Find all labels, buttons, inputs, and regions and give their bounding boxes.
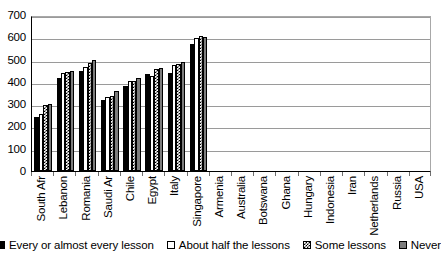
legend-label: Never	[411, 239, 441, 251]
y-axis-tick-label: 0	[20, 166, 26, 178]
x-axis-tick-label: Singapore	[192, 176, 204, 227]
x-axis-tick-label: Romania	[81, 176, 93, 221]
x-axis-tick-label: Botswana	[258, 176, 270, 225]
bar	[136, 78, 140, 171]
bar-group	[32, 17, 54, 171]
y-axis-tick-label: 500	[7, 55, 26, 67]
bars-layer	[32, 17, 430, 171]
bar-group	[210, 17, 232, 171]
y-axis-tick-label: 400	[7, 77, 26, 89]
legend-item[interactable]: Every or almost every lesson	[0, 239, 154, 251]
bar-group	[143, 17, 165, 171]
x-axis-tick-label: Chile	[125, 176, 137, 201]
x-axis-tick-label: USA	[414, 176, 426, 199]
bar	[70, 71, 74, 171]
x-axis-tick-label: Armenia	[214, 176, 226, 217]
x-axis-tick-label: Iran	[347, 176, 359, 195]
y-axis-tick-label: 300	[7, 99, 26, 111]
x-axis-tick-label: Ghana	[281, 176, 293, 210]
x-axis-tick-label: Italy	[169, 176, 181, 196]
bar-group	[76, 17, 98, 171]
x-axis-tick-label: Lebanon	[58, 176, 70, 219]
bar-group	[54, 17, 76, 171]
x-axis-tick-label: Russia	[392, 176, 404, 210]
bar-group	[388, 17, 410, 171]
y-axis-tick-label: 100	[7, 144, 26, 156]
bar-group	[165, 17, 187, 171]
bar-group	[188, 17, 210, 171]
legend-label: Every or almost every lesson	[9, 239, 154, 251]
bar-group	[99, 17, 121, 171]
x-axis-tick-label: Indonesia	[325, 176, 337, 224]
bar-group	[410, 17, 432, 171]
chart-legend: Every or almost every lessonAbout half t…	[0, 237, 438, 253]
legend-swatch-icon	[0, 241, 5, 249]
bar	[159, 68, 163, 171]
y-axis-tick-label: 200	[7, 122, 26, 134]
x-axis-tick-label: Egypt	[147, 176, 159, 204]
bar-group	[365, 17, 387, 171]
bar-group	[276, 17, 298, 171]
y-axis-tick-label: 600	[7, 33, 26, 45]
x-axis-tick-label: Saudi Ar	[103, 176, 115, 218]
bar	[203, 37, 207, 171]
legend-label: About half the lessons	[179, 239, 290, 251]
x-axis-tick-label: South Afr	[36, 176, 48, 222]
x-axis-tick-label: Netherlands	[369, 176, 381, 236]
bar-group	[121, 17, 143, 171]
legend-swatch-icon	[303, 241, 311, 249]
bar-group	[321, 17, 343, 171]
x-axis-tick-label: Hungary	[303, 176, 315, 218]
legend-item[interactable]: About half the lessons	[167, 239, 290, 251]
bar-group	[343, 17, 365, 171]
bar	[181, 62, 185, 171]
legend-item[interactable]: Some lessons	[303, 239, 386, 251]
legend-label: Some lessons	[315, 239, 386, 251]
bar-group	[232, 17, 254, 171]
bar-group	[254, 17, 276, 171]
bar-group	[299, 17, 321, 171]
legend-item[interactable]: Never	[399, 239, 441, 251]
bar	[48, 104, 52, 171]
x-axis: South AfrLebanonRomaniaSaudi ArChileEgyp…	[31, 176, 431, 234]
x-axis-tick-label: Australia	[236, 176, 248, 219]
legend-swatch-icon	[399, 241, 407, 249]
plot-area	[31, 16, 431, 172]
bar	[92, 60, 96, 171]
y-axis: 0100200300400500600700	[0, 0, 30, 180]
y-axis-tick-label: 700	[7, 10, 26, 22]
legend-swatch-icon	[167, 241, 175, 249]
bar	[114, 91, 118, 171]
